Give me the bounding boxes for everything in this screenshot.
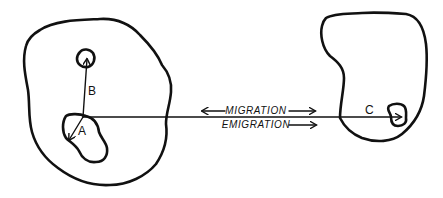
blob-c-outline <box>388 104 406 126</box>
label-c: C <box>365 103 374 117</box>
migration-diagram: B A C MIGRATION EMIGRATION <box>0 0 443 198</box>
label-b: B <box>88 84 96 98</box>
right-region-outline <box>321 13 427 141</box>
left-region-outline <box>24 19 171 185</box>
label-a: A <box>78 124 86 138</box>
diagram-svg: B A C MIGRATION EMIGRATION <box>0 0 443 198</box>
small-circle-b <box>77 49 94 67</box>
label-migration: MIGRATION <box>225 105 287 116</box>
label-emigration: EMIGRATION <box>222 119 291 130</box>
